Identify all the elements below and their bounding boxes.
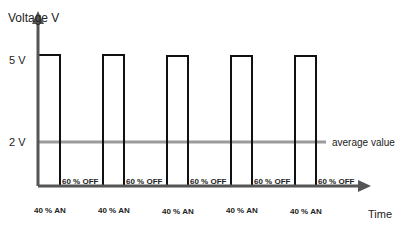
y-axis-label: Voltage V <box>8 11 59 25</box>
off-label: 60 % OFF <box>318 177 355 186</box>
on-label: 40 % AN <box>98 206 130 215</box>
average-label: average value <box>332 137 395 148</box>
y-tick-5v: 5 V <box>9 54 26 66</box>
off-label: 60 % OFF <box>126 177 163 186</box>
y-tick-2v: 2 V <box>9 136 26 148</box>
x-axis-label: Time <box>368 208 392 220</box>
off-label: 60 % OFF <box>62 177 99 186</box>
on-label: 40 % AN <box>34 206 66 215</box>
off-label: 60 % OFF <box>190 177 227 186</box>
pwm-signal <box>38 55 316 186</box>
on-label: 40 % AN <box>226 206 258 215</box>
pwm-diagram: Voltage V 5 V 2 V average value Time 60 … <box>0 0 407 227</box>
on-label: 40 % AN <box>162 207 194 216</box>
x-axis-arrow-icon <box>358 180 371 192</box>
on-label: 40 % AN <box>290 207 322 216</box>
off-label: 60 % OFF <box>254 177 291 186</box>
